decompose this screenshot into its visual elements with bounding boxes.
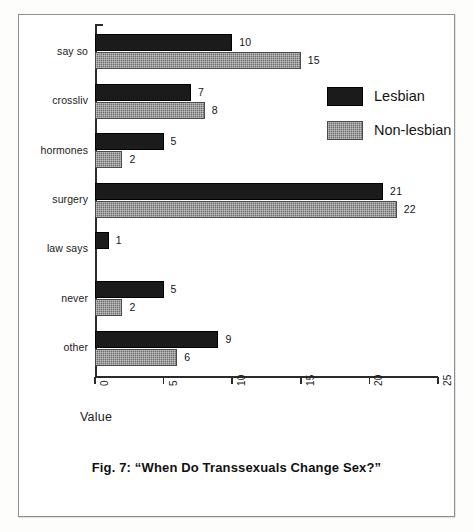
bar-value-label: 5 <box>171 135 177 147</box>
bar-lesbian-surgery <box>95 183 383 200</box>
legend-label-lesbian: Lesbian <box>374 88 425 104</box>
bar-value-label: 9 <box>225 333 231 345</box>
category-label-text: surgery <box>10 193 88 205</box>
bar-non-lesbian-other <box>95 349 177 366</box>
bar-lesbian-never <box>95 281 164 298</box>
bar-non-lesbian-crossliv <box>95 102 205 119</box>
value-axis-tick-label: 20 <box>373 374 384 386</box>
category-label-other: other <box>8 341 88 355</box>
category-label-crossliv: crossliv <box>8 94 88 108</box>
figure-caption: Fig. 7: “When Do Transsexuals Change Sex… <box>18 460 455 475</box>
bar-chart-plot: 0510152025 say socrosslivhormonessurgery… <box>0 0 474 532</box>
category-label-hormones: hormones <box>8 144 88 158</box>
legend-label-non-lesbian: Non-lesbian <box>374 122 451 138</box>
legend-entry-non-lesbian: Non-lesbian <box>327 118 457 142</box>
bar-value-label: 7 <box>198 86 204 98</box>
bar-value-label: 2 <box>129 301 135 313</box>
bar-lesbian-hormones <box>95 133 164 150</box>
bar-non-lesbian-hormones <box>95 151 122 168</box>
category-label-text: say so <box>10 45 88 57</box>
bar-value-label: 10 <box>239 36 251 48</box>
value-axis-tick <box>300 377 302 384</box>
category-label-text: hormones <box>10 144 88 156</box>
value-axis-tick-label: 15 <box>305 374 316 386</box>
legend-swatch-lesbian <box>327 87 363 106</box>
bar-lesbian-law-says <box>95 232 109 249</box>
value-axis-tick <box>163 377 165 384</box>
category-label-text: crossliv <box>10 94 88 106</box>
category-label-text: never <box>10 292 88 304</box>
value-axis-tick <box>369 377 371 384</box>
category-axis-top-cap <box>95 24 103 26</box>
bar-value-label: 15 <box>308 54 320 66</box>
bar-value-label: 8 <box>212 104 218 116</box>
category-label-text: other <box>10 341 88 353</box>
bar-value-label: 1 <box>116 234 122 246</box>
bar-value-label: 2 <box>129 153 135 165</box>
category-label-surgery: surgery <box>8 193 88 207</box>
value-axis-tick-label: 10 <box>236 374 247 386</box>
category-label-say-so: say so <box>8 45 88 59</box>
bar-value-label: 22 <box>404 203 416 215</box>
bar-non-lesbian-say-so <box>95 52 301 69</box>
scanned-page: 0510152025 say socrosslivhormonessurgery… <box>0 0 474 532</box>
bar-value-label: 21 <box>390 185 402 197</box>
value-axis-title: Value <box>80 410 112 424</box>
bar-non-lesbian-surgery <box>95 201 397 218</box>
bar-non-lesbian-never <box>95 299 122 316</box>
value-axis-line <box>95 376 438 378</box>
bar-value-label: 5 <box>171 283 177 295</box>
bar-lesbian-other <box>95 331 218 348</box>
value-axis-tick <box>94 377 96 384</box>
bar-value-label: 6 <box>184 351 190 363</box>
value-axis-tick-label: 0 <box>99 380 110 386</box>
category-label-law-says: law says <box>8 242 88 256</box>
category-label-never: never <box>8 292 88 306</box>
value-axis-tick-label: 5 <box>168 380 179 386</box>
value-axis-tick <box>231 377 233 384</box>
bar-lesbian-crossliv <box>95 84 191 101</box>
chart-legend: Lesbian Non-lesbian <box>327 84 457 152</box>
category-label-text: law says <box>10 242 88 254</box>
value-axis-tick-label: 25 <box>442 374 453 386</box>
bar-lesbian-say-so <box>95 34 232 51</box>
value-axis-tick <box>437 377 439 384</box>
legend-entry-lesbian: Lesbian <box>327 84 457 108</box>
legend-swatch-non-lesbian <box>327 121 363 140</box>
